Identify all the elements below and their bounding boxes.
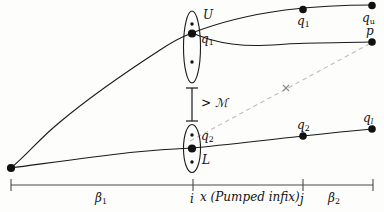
ql-end-node xyxy=(368,125,376,133)
ql-end-label: ql xyxy=(363,112,373,124)
axis-tick-j-label: j xyxy=(300,193,304,205)
gap-bracket xyxy=(186,88,198,121)
q1-junction-node xyxy=(188,29,196,37)
p-end-node xyxy=(368,38,376,46)
lower-set-dot-bottom xyxy=(190,160,193,163)
q2-mid-node xyxy=(299,132,307,140)
qu-end-label: qu xyxy=(362,12,375,24)
q2-junction-node xyxy=(188,144,196,152)
flat-curve-path xyxy=(192,33,372,46)
q1-mid-label: q1 xyxy=(297,15,310,27)
axis-middle-label: x (Pumped infix) xyxy=(200,191,300,203)
dashed-diagonal-line xyxy=(190,43,371,141)
upper-set-dot-bottom xyxy=(190,60,193,63)
gap-label: > ℳ xyxy=(201,97,228,109)
cross-marker-icon xyxy=(283,85,289,91)
axis-beta1-label: β1 xyxy=(95,192,107,204)
upper-set-ellipse xyxy=(184,11,201,83)
upper-set-dot-top xyxy=(190,22,193,25)
diagram-canvas xyxy=(0,0,384,212)
q1-mid-node xyxy=(299,6,307,14)
q1-junction-label: q1 xyxy=(201,33,214,45)
origin-node xyxy=(7,164,15,172)
upper-set-label: U xyxy=(203,9,213,21)
axis-beta2-label: β2 xyxy=(328,192,340,204)
bottom-axis xyxy=(11,179,373,191)
p-end-label: p xyxy=(366,25,374,37)
q2-junction-label: q2 xyxy=(201,130,214,142)
lower-set-dot-top xyxy=(190,133,193,136)
q2-mid-label: q2 xyxy=(297,119,310,131)
qu-end-node xyxy=(368,2,376,10)
axis-tick-i-label: i xyxy=(190,193,194,205)
figure-container: U L q1 q2 q1 qu p q2 ql > ℳ β1 i x (Pump… xyxy=(0,0,384,212)
lower-set-label: L xyxy=(202,154,210,166)
